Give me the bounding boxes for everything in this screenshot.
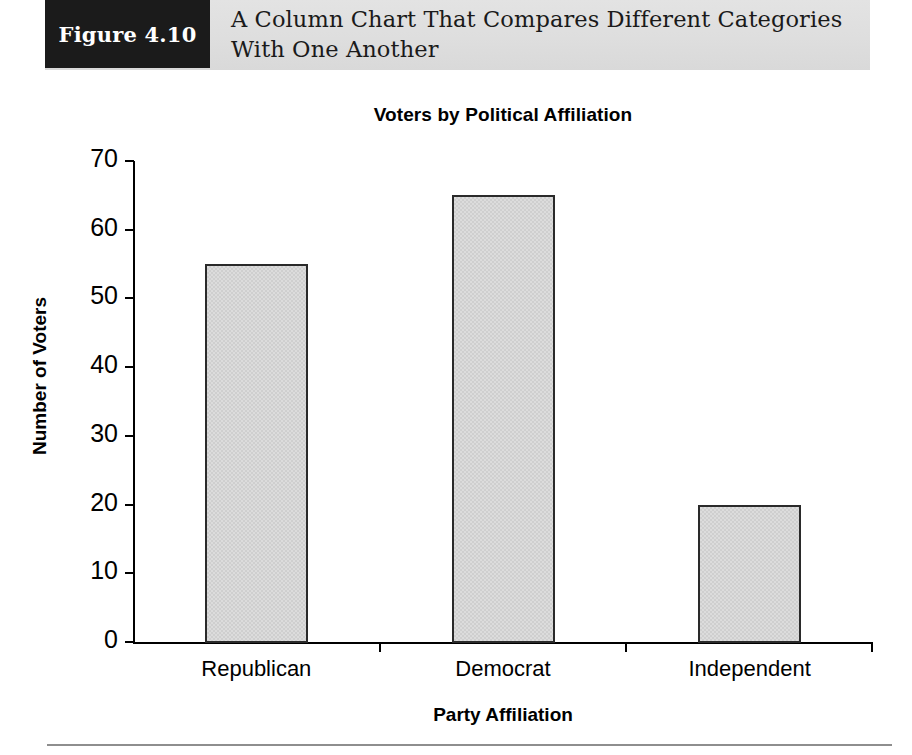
x-axis-tick	[871, 642, 873, 652]
y-axis-tick	[125, 229, 134, 231]
y-axis-tick-label: 60	[58, 213, 118, 242]
x-axis-tick	[379, 642, 381, 652]
page-divider-rule	[47, 744, 892, 746]
y-axis-tick	[125, 160, 134, 162]
y-axis-tick-label: 30	[58, 419, 118, 448]
figure-caption-header: Figure 4.10 A Column Chart That Compares…	[45, 0, 870, 70]
y-axis-tick-label: 70	[58, 144, 118, 173]
y-axis-tick	[125, 641, 134, 643]
x-axis-category-label: Independent	[626, 656, 873, 682]
x-axis-title: Party Affiliation	[133, 704, 873, 726]
figure-number-label: Figure 4.10	[59, 22, 197, 47]
bar-democrat	[452, 195, 555, 643]
y-axis-tick	[125, 435, 134, 437]
figure-caption-text: A Column Chart That Compares Different C…	[231, 4, 861, 64]
y-axis-tick-label: 50	[58, 281, 118, 310]
chart-title: Voters by Political Affiliation	[133, 104, 873, 126]
y-axis-title: Number of Voters	[29, 246, 51, 506]
x-axis-category-label: Democrat	[380, 656, 627, 682]
y-axis-tick-label: 0	[58, 625, 118, 654]
column-chart: Voters by Political Affiliation Number o…	[0, 70, 912, 730]
y-axis-tick	[125, 572, 134, 574]
y-axis-tick-label: 40	[58, 350, 118, 379]
y-axis-tick-label: 20	[58, 488, 118, 517]
y-axis-tick	[125, 297, 134, 299]
x-axis-category-label: Republican	[133, 656, 380, 682]
figure-number-badge: Figure 4.10	[45, 0, 210, 68]
x-axis-tick	[625, 642, 627, 652]
bar-independent	[698, 505, 801, 643]
bar-republican	[205, 264, 308, 643]
y-axis-tick-label: 10	[58, 556, 118, 585]
y-axis-tick	[125, 504, 134, 506]
y-axis-tick	[125, 366, 134, 368]
